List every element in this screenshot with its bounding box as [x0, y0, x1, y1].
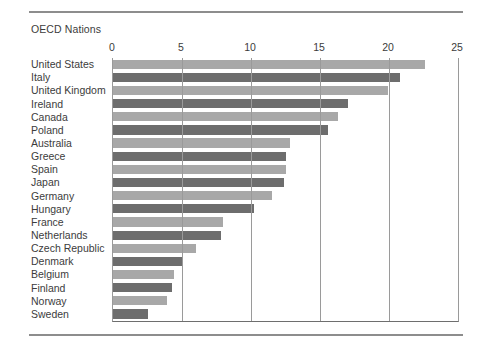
x-tick-label: 5 [178, 41, 184, 53]
y-tick-label: Spain [31, 164, 108, 175]
bar[interactable] [113, 112, 338, 121]
bar-row[interactable] [113, 97, 458, 110]
bar-row[interactable] [113, 242, 458, 255]
figure: OECD Nations 0510152025 United StatesIta… [0, 0, 487, 349]
bar[interactable] [113, 125, 328, 134]
x-tick-label: 10 [244, 41, 256, 53]
bar[interactable] [113, 296, 167, 305]
y-axis-category-labels: United StatesItalyUnited KingdomIrelandC… [0, 58, 108, 321]
x-tick-label: 0 [109, 41, 115, 53]
top-rule [29, 11, 463, 13]
gridline [320, 58, 321, 321]
y-tick-label: Australia [31, 138, 108, 149]
bar-row[interactable] [113, 268, 458, 281]
bar[interactable] [113, 217, 223, 226]
y-tick-label: Poland [31, 125, 108, 136]
bar[interactable] [113, 257, 183, 266]
bar[interactable] [113, 152, 286, 161]
bar-row[interactable] [113, 216, 458, 229]
y-tick-label: United States [31, 59, 108, 70]
bar[interactable] [113, 60, 425, 69]
bar[interactable] [113, 283, 172, 292]
y-tick-label: Canada [31, 112, 108, 123]
y-tick-label: Ireland [31, 99, 108, 110]
bar[interactable] [113, 270, 174, 279]
y-tick-label: Belgium [31, 269, 108, 280]
y-tick-label: United Kingdom [31, 85, 108, 96]
y-tick-label: Norway [31, 296, 108, 307]
y-tick-label: Italy [31, 72, 108, 83]
bar-row[interactable] [113, 229, 458, 242]
bar-row[interactable] [113, 163, 458, 176]
bar-row[interactable] [113, 255, 458, 268]
x-tick-label: 25 [451, 41, 463, 53]
bar-rows [113, 58, 458, 321]
y-tick-label: France [31, 217, 108, 228]
bar[interactable] [113, 165, 286, 174]
bar-row[interactable] [113, 190, 458, 203]
y-tick-label: Greece [31, 151, 108, 162]
bar[interactable] [113, 138, 290, 147]
bar-row[interactable] [113, 203, 458, 216]
bar[interactable] [113, 204, 254, 213]
y-tick-label: Netherlands [31, 230, 108, 241]
bar[interactable] [113, 231, 221, 240]
bar-row[interactable] [113, 295, 458, 308]
y-tick-label: Czech Republic [31, 243, 108, 254]
x-axis-tick-labels: 0510152025 [0, 41, 487, 55]
bar-row[interactable] [113, 84, 458, 97]
bar-row[interactable] [113, 58, 458, 71]
bar[interactable] [113, 99, 348, 108]
bar-row[interactable] [113, 71, 458, 84]
gridline [389, 58, 390, 321]
bar-row[interactable] [113, 150, 458, 163]
x-tick-label: 20 [382, 41, 394, 53]
plot-area [112, 58, 459, 322]
bar[interactable] [113, 191, 272, 200]
y-tick-label: Finland [31, 283, 108, 294]
y-tick-label: Hungary [31, 204, 108, 215]
x-tick-label: 15 [313, 41, 325, 53]
bar[interactable] [113, 178, 284, 187]
bottom-rule [29, 334, 463, 336]
bar-row[interactable] [113, 111, 458, 124]
y-tick-label: Sweden [31, 309, 108, 320]
bar-row[interactable] [113, 308, 458, 321]
gridline [251, 58, 252, 321]
bar[interactable] [113, 73, 400, 82]
y-tick-label: Germany [31, 191, 108, 202]
bar-row[interactable] [113, 176, 458, 189]
y-tick-label: Japan [31, 177, 108, 188]
gridline [182, 58, 183, 321]
chart-title: OECD Nations [31, 23, 101, 35]
y-tick-label: Denmark [31, 256, 108, 267]
bar-row[interactable] [113, 282, 458, 295]
bar[interactable] [113, 309, 148, 318]
bar-row[interactable] [113, 137, 458, 150]
bar-row[interactable] [113, 124, 458, 137]
bar[interactable] [113, 244, 196, 253]
